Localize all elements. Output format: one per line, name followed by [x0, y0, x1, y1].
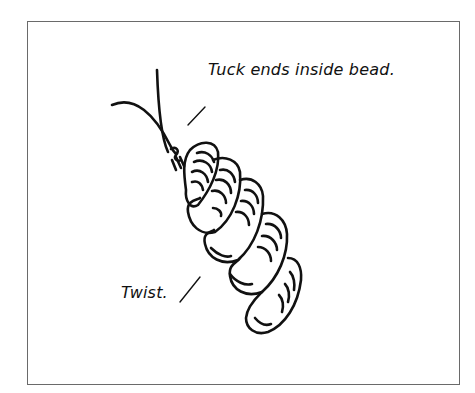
tuck-ends-label: Tuck ends inside bead. — [208, 60, 395, 79]
leader-line-twist — [180, 277, 200, 302]
wire-ends — [112, 70, 184, 170]
twisted-bead-illustration — [0, 0, 475, 393]
twist-label: Twist. — [121, 283, 168, 302]
bead-segments — [184, 143, 301, 333]
leader-line-tuck — [188, 107, 205, 125]
